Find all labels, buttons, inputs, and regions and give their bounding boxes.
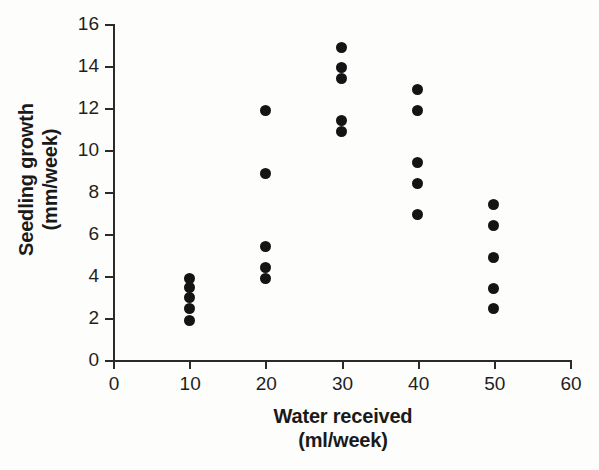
x-axis-label: Water received (ml/week) [113, 404, 573, 452]
data-point [336, 42, 347, 53]
x-tick-label: 50 [484, 373, 505, 395]
y-tick-label: 4 [88, 265, 99, 287]
data-point [184, 315, 195, 326]
x-tick-label: 40 [408, 373, 429, 395]
y-tick: 10 [105, 150, 113, 152]
y-tick-label: 16 [78, 13, 99, 35]
x-tick: 20 [265, 360, 267, 369]
data-point [184, 292, 195, 303]
y-tick: 6 [105, 234, 113, 236]
data-point [260, 241, 271, 252]
data-point [336, 73, 347, 84]
data-point [488, 252, 499, 263]
data-point [260, 273, 271, 284]
y-tick: 12 [105, 108, 113, 110]
y-tick: 8 [105, 192, 113, 194]
data-point [488, 220, 499, 231]
y-tick-label: 2 [88, 307, 99, 329]
data-point [336, 115, 347, 126]
y-tick: 16 [105, 24, 113, 26]
y-tick-label: 0 [88, 349, 99, 371]
x-tick-label: 60 [560, 373, 581, 395]
x-tick-label: 10 [180, 373, 201, 395]
x-tick: 10 [189, 360, 191, 369]
x-tick: 0 [113, 360, 115, 369]
data-point [412, 178, 423, 189]
data-point [412, 157, 423, 168]
y-axis-label-line-2: (mm/week) [38, 104, 62, 257]
y-axis-line [113, 24, 115, 361]
data-point [336, 126, 347, 137]
y-tick: 2 [105, 318, 113, 320]
data-point [184, 303, 195, 314]
data-point [260, 262, 271, 273]
x-axis-label-line-1: Water received [113, 404, 573, 428]
y-tick-label: 6 [88, 223, 99, 245]
x-tick: 40 [418, 360, 420, 369]
data-point [488, 199, 499, 210]
y-tick-label: 8 [88, 181, 99, 203]
y-tick-label: 12 [78, 97, 99, 119]
data-point [488, 283, 499, 294]
y-tick-label: 14 [78, 55, 99, 77]
y-tick: 4 [105, 276, 113, 278]
x-axis-label-line-2: (ml/week) [113, 428, 573, 452]
data-point [412, 105, 423, 116]
y-tick: 0 [105, 360, 113, 362]
data-point [336, 62, 347, 73]
scatter-chart: Seedling growth (mm/week) 0246810121416 … [0, 0, 599, 470]
x-tick-label: 20 [256, 373, 277, 395]
x-tick-label: 0 [109, 373, 120, 395]
data-point [488, 303, 499, 314]
y-axis-label: Seedling growth (mm/week) [0, 0, 76, 360]
data-point [260, 105, 271, 116]
y-axis-label-line-1: Seedling growth [14, 104, 38, 257]
x-tick: 30 [342, 360, 344, 369]
y-tick-label: 10 [78, 139, 99, 161]
x-tick: 50 [494, 360, 496, 369]
x-tick: 60 [570, 360, 572, 369]
data-point [412, 209, 423, 220]
data-point [260, 168, 271, 179]
data-point [412, 84, 423, 95]
plot-area: 0246810121416 0102030405060 [113, 24, 570, 360]
y-tick: 14 [105, 66, 113, 68]
x-tick-label: 30 [332, 373, 353, 395]
